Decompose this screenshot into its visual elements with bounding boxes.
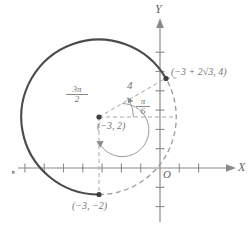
y-axis-arrowhead bbox=[156, 18, 164, 28]
axes-group bbox=[18, 18, 236, 222]
point-on-circle-label: (−3 + 2√3, 4) bbox=[171, 66, 227, 77]
x-axis-label: X bbox=[238, 160, 245, 175]
x-axis-arrowhead bbox=[226, 164, 236, 172]
scan-artifact-dot bbox=[12, 171, 15, 174]
diagram-svg bbox=[0, 0, 252, 230]
radius-length-label: 4 bbox=[127, 79, 133, 91]
angle-3pi-over-2-numerator: 3π bbox=[66, 85, 88, 94]
angle-pi-over-6-group bbox=[127, 97, 133, 117]
bottom-point-label: (−3, −2) bbox=[72, 200, 107, 211]
point-center bbox=[96, 114, 101, 119]
figure-canvas: X Y O (−3 + 2√3, 4) (−3, 2) (−3, −2) 4 π… bbox=[0, 0, 252, 230]
angle-3pi-over-2-arrowhead bbox=[96, 141, 103, 148]
point-on-circle bbox=[163, 76, 168, 81]
origin-label: O bbox=[163, 168, 171, 180]
angle-pi-over-6-denominator: 6 bbox=[136, 106, 150, 116]
point-bottom bbox=[96, 192, 101, 197]
angle-3pi-over-2-label: 3π 2 bbox=[66, 85, 88, 104]
y-axis-label: Y bbox=[155, 2, 162, 17]
angle-pi-over-6-label: π 6 bbox=[136, 97, 150, 116]
angle-pi-over-6-numerator: π bbox=[136, 97, 150, 106]
center-point-label: (−3, 2) bbox=[97, 120, 125, 131]
angle-3pi-over-2-denominator: 2 bbox=[66, 94, 88, 104]
points-group bbox=[12, 76, 169, 197]
